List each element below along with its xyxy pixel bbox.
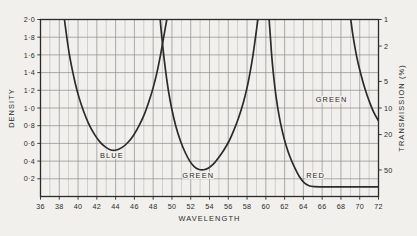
- x-tick-label: 66: [318, 202, 327, 211]
- y2-tick-label: 5: [384, 77, 388, 86]
- y-tick-label: 1·4: [24, 68, 35, 77]
- y-tick-label: 0·6: [24, 139, 35, 148]
- x-tick-label: 72: [374, 202, 383, 211]
- x-tick-label: 70: [355, 202, 364, 211]
- x-tick-label: 42: [93, 202, 102, 211]
- y2-tick-label: 50: [384, 166, 393, 175]
- x-tick-label: 36: [36, 202, 45, 211]
- x-tick-label: 62: [280, 202, 289, 211]
- y-tick-label: 1·8: [24, 33, 35, 42]
- y2-axis-title: TRANSMISSION (%): [397, 64, 406, 151]
- y-tick-label: 1·2: [24, 86, 35, 95]
- x-tick-label: 48: [149, 202, 158, 211]
- chart-background: [0, 0, 417, 236]
- series-annotation: RED: [306, 171, 325, 180]
- y-tick-label: 1·6: [24, 51, 35, 60]
- x-axis-title: WAVELENGTH: [179, 214, 241, 223]
- chart-svg: 363840424446485052545658606264666870720·…: [0, 0, 417, 236]
- x-tick-label: 52: [186, 202, 195, 211]
- x-tick-label: 54: [205, 202, 214, 211]
- x-tick-label: 68: [337, 202, 346, 211]
- y-tick-label: 0·2: [24, 174, 35, 183]
- y-tick-label: 2·0: [24, 15, 35, 24]
- x-tick-label: 38: [55, 202, 64, 211]
- x-tick-label: 58: [243, 202, 252, 211]
- series-annotation: GREEN: [316, 95, 348, 104]
- y2-tick-label: 10: [384, 104, 393, 113]
- y-axis-title: DENSITY: [7, 88, 16, 128]
- y-tick-label: 1·0: [24, 104, 35, 113]
- series-annotation: GREEN: [182, 171, 214, 180]
- x-tick-label: 46: [130, 202, 139, 211]
- y2-tick-label: 2: [384, 42, 388, 51]
- x-tick-label: 64: [299, 202, 308, 211]
- y2-tick-label: 20: [384, 130, 393, 139]
- x-tick-label: 56: [224, 202, 233, 211]
- x-tick-label: 50: [168, 202, 177, 211]
- y2-tick-label: 1: [384, 15, 388, 24]
- x-tick-label: 60: [262, 202, 271, 211]
- series-annotation: BLUE: [100, 151, 124, 160]
- density-transmission-chart: 363840424446485052545658606264666870720·…: [0, 0, 417, 236]
- y-tick-label: 0·4: [24, 157, 35, 166]
- x-tick-label: 40: [74, 202, 83, 211]
- y-tick-label: 0·8: [24, 121, 35, 130]
- x-tick-label: 44: [111, 202, 120, 211]
